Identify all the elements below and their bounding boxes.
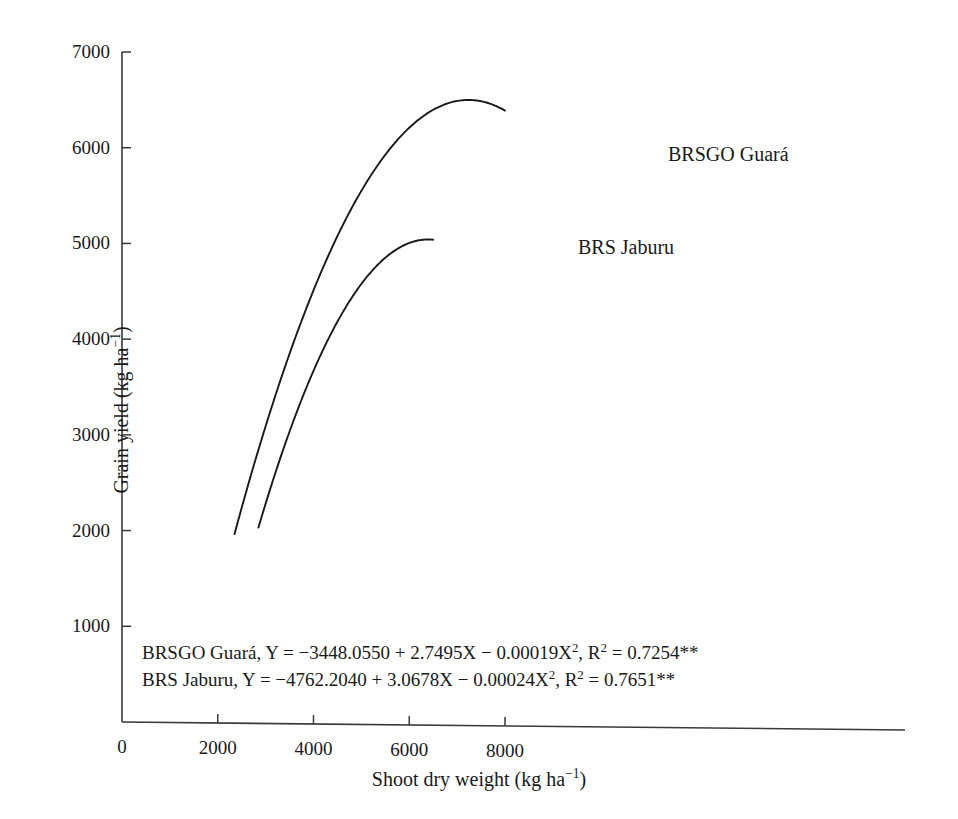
equation-jaburu-separator: , R — [555, 669, 577, 690]
x-axis-line — [122, 722, 905, 730]
curve-brsgo-guar — [235, 100, 505, 534]
data-curves — [235, 100, 505, 534]
axis-ticks — [122, 52, 505, 726]
x-tick-label: 0 — [117, 736, 127, 758]
y-tick-label: 5000 — [40, 232, 110, 254]
y-tick-label: 3000 — [40, 424, 110, 446]
equation-guara: BRSGO Guará, Y = −3448.0550 + 2.7495X − … — [142, 640, 698, 667]
y-tick-label: 4000 — [40, 328, 110, 350]
y-axis-title: Grain yield (kg ha−1) — [110, 326, 133, 493]
equation-guara-prefix: BRSGO Guará, Y = — [142, 642, 299, 663]
y-tick-label: 6000 — [40, 137, 110, 159]
x-tick-label: 6000 — [390, 739, 428, 761]
x-axis-title-close: ) — [580, 768, 587, 790]
equation-jaburu: BRS Jaburu, Y = −4762.2040 + 3.0678X − 0… — [142, 667, 698, 694]
y-axis-title-close: ) — [110, 326, 132, 333]
equation-guara-separator: , R — [578, 642, 600, 663]
grain-yield-chart-figure: 1000200030004000500060007000 02000400060… — [0, 0, 958, 819]
plot-area — [0, 0, 958, 819]
y-tick-label: 2000 — [40, 520, 110, 542]
x-tick-label: 8000 — [486, 740, 524, 762]
x-axis-title: Shoot dry weight (kg ha−1) — [0, 768, 958, 791]
y-axis-title-text: Grain yield (kg ha — [110, 347, 132, 493]
equation-jaburu-significance: ** — [656, 669, 675, 690]
equation-jaburu-body: −4762.2040 + 3.0678X − 0.00024X — [275, 669, 548, 690]
y-axis-unit-exponent: −1 — [108, 333, 123, 347]
regression-equations: BRSGO Guará, Y = −3448.0550 + 2.7495X − … — [142, 640, 698, 694]
x-axis-unit-exponent: −1 — [565, 766, 579, 781]
series-label-jaburu: BRS Jaburu — [578, 236, 674, 259]
series-label-guara: BRSGO Guará — [668, 143, 789, 166]
x-axis-title-text: Shoot dry weight (kg ha — [372, 768, 565, 790]
equation-guara-r-value: = 0.7254 — [607, 642, 679, 663]
equation-jaburu-prefix: BRS Jaburu, Y = — [142, 669, 275, 690]
y-tick-label: 7000 — [40, 41, 110, 63]
equation-guara-body: −3448.0550 + 2.7495X − 0.00019X — [299, 642, 572, 663]
x-tick-label: 2000 — [199, 737, 237, 759]
x-tick-label: 4000 — [295, 738, 333, 760]
y-tick-label: 1000 — [40, 615, 110, 637]
curve-brs-jaburu — [258, 239, 433, 527]
equation-guara-significance: ** — [679, 642, 698, 663]
equation-jaburu-r-value: = 0.7651 — [584, 669, 656, 690]
